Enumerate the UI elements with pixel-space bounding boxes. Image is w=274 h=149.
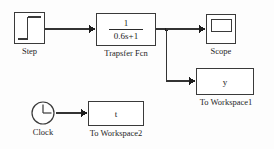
block-label-to-workspace1: To Workspace1 [184, 97, 268, 107]
block-label-clock: Clock [21, 127, 65, 137]
block-clock[interactable] [30, 100, 56, 126]
transfer-function-icon: 1 0.6s+1 [97, 14, 155, 45]
scope-screen-icon [211, 19, 232, 32]
transfer-fcn-denominator: 0.6s+1 [114, 31, 138, 41]
block-transfer-fcn[interactable]: 1 0.6s+1 [96, 13, 156, 46]
to-workspace-icon: y [197, 69, 253, 94]
to-workspace-icon: t [89, 102, 143, 125]
block-label-transfer-fcn: Trapsfer Fcn [85, 48, 167, 58]
block-scope[interactable] [206, 14, 236, 44]
clock-icon [30, 100, 56, 126]
block-label-scope: Scope [192, 46, 250, 56]
block-label-to-workspace2: To Workspace2 [74, 128, 158, 138]
wire-step-to-transfer-fcn[interactable] [45, 25, 96, 33]
to-workspace2-variable: t [115, 109, 118, 119]
block-to-workspace1[interactable]: y [196, 68, 254, 95]
step-waveform-icon [15, 13, 44, 43]
block-step[interactable] [14, 12, 45, 44]
block-to-workspace2[interactable]: t [88, 101, 144, 126]
block-label-step: Step [0, 46, 59, 56]
wire-branch-to-scope[interactable] [166, 25, 206, 33]
diagram-canvas: Step 1 0.6s+1 Trapsfer Fcn Scope y To Wo… [0, 0, 274, 149]
wire-clock-to-to-workspace2[interactable] [56, 109, 88, 117]
wire-branch-to-to-workspace1[interactable] [166, 29, 196, 85]
to-workspace1-variable: y [223, 77, 228, 87]
transfer-fcn-numerator: 1 [124, 19, 129, 29]
